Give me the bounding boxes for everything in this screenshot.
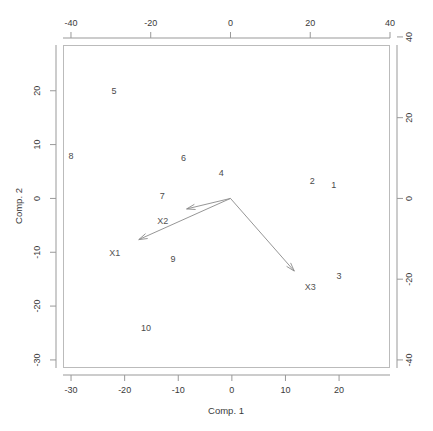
tick-label: -10 [32, 246, 42, 259]
tick-label: -20 [144, 18, 157, 28]
tick-label: 10 [32, 140, 42, 150]
observation-label-7: 7 [160, 191, 165, 201]
tick-label: 10 [280, 385, 290, 395]
tick-label: 0 [229, 385, 234, 395]
tick-label: 0 [228, 18, 233, 28]
biplot-figure: -40-2002040 40200-20-40 -30-20-1001020 2… [0, 0, 433, 431]
arrow-shaft-X2 [187, 198, 231, 208]
tick-label: -40 [64, 18, 77, 28]
tick-label: -30 [32, 353, 42, 366]
observation-label-1: 1 [331, 180, 336, 190]
observation-label-3: 3 [337, 271, 342, 281]
observation-label-2: 2 [310, 176, 315, 186]
left-axis-ticks: 20100-10-20-30 [32, 86, 56, 367]
bottom-axis-ticks: -30-20-1001020 [65, 375, 345, 395]
arrow-shaft-X1 [139, 198, 231, 239]
observation-label-4: 4 [219, 168, 224, 178]
tick-label: 20 [404, 113, 414, 123]
observation-label-6: 6 [181, 153, 186, 163]
tick-label: -40 [404, 353, 414, 366]
tick-label: 20 [305, 18, 315, 28]
variable-arrows [139, 198, 295, 271]
tick-label: 20 [334, 385, 344, 395]
tick-label: -20 [118, 385, 131, 395]
tick-label: 20 [32, 86, 42, 96]
tick-label: -20 [404, 273, 414, 286]
top-axis-ticks: -40-2002040 [64, 18, 395, 38]
tick-label: -30 [65, 385, 78, 395]
x-axis-title: Comp. 1 [208, 405, 244, 416]
variable-label-X2: X2 [157, 216, 168, 226]
observation-label-5: 5 [111, 86, 116, 96]
variable-labels: X1X2X3 [109, 216, 315, 293]
tick-label: 0 [404, 196, 414, 201]
observation-label-9: 9 [170, 254, 175, 264]
tick-label: -10 [172, 385, 185, 395]
variable-label-X3: X3 [305, 282, 316, 292]
observation-label-10: 10 [141, 323, 151, 333]
biplot-canvas: -40-2002040 40200-20-40 -30-20-1001020 2… [0, 0, 433, 431]
tick-label: 40 [404, 32, 414, 42]
tick-label: 0 [32, 196, 42, 201]
arrow-shaft-X3 [230, 198, 294, 271]
observation-label-8: 8 [69, 151, 74, 161]
variable-label-X1: X1 [109, 248, 120, 258]
tick-label: -20 [32, 300, 42, 313]
right-axis-ticks: 40200-20-40 [397, 32, 414, 367]
tick-label: 40 [385, 18, 395, 28]
y-axis-title: Comp. 2 [13, 188, 24, 224]
